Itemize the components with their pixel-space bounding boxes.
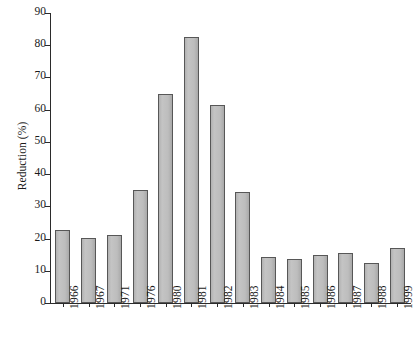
y-tick-label: 50	[35, 134, 47, 146]
x-tick-label: 1983	[248, 285, 260, 309]
x-tick-mark	[166, 303, 167, 307]
x-tick-mark	[217, 303, 218, 307]
x-tick-label: 1987	[351, 285, 363, 309]
x-tick-label: 1988	[376, 285, 388, 309]
x-tick-label: 1985	[299, 285, 311, 309]
x-tick-mark	[346, 303, 347, 307]
x-tick-mark	[243, 303, 244, 307]
y-axis-line	[50, 13, 51, 304]
x-tick-label: 1980	[171, 285, 183, 309]
x-tick-mark	[371, 303, 372, 307]
y-tick-label: 30	[35, 198, 47, 210]
x-tick-mark	[114, 303, 115, 307]
y-tick-label: 0	[40, 295, 46, 307]
x-tick-mark	[397, 303, 398, 307]
x-tick-mark	[63, 303, 64, 307]
x-tick-mark	[320, 303, 321, 307]
x-tick-label: 1986	[325, 285, 337, 309]
x-tick-label: 1999	[402, 285, 414, 309]
x-tick-label: 1967	[94, 285, 106, 309]
bar	[158, 94, 173, 303]
y-tick-label: 20	[35, 231, 47, 243]
y-axis-title: Reduction (%)	[16, 86, 28, 226]
bar	[184, 37, 199, 303]
y-tick-label: 10	[35, 263, 47, 275]
x-tick-label: 1981	[196, 285, 208, 309]
x-tick-mark	[89, 303, 90, 307]
x-tick-label: 1976	[145, 285, 157, 309]
y-tick-label: 90	[35, 5, 47, 17]
bar	[210, 105, 225, 303]
y-tick-label: 80	[35, 37, 47, 49]
y-tick-label: 60	[35, 102, 47, 114]
x-tick-label: 1971	[119, 285, 131, 309]
x-tick-label: 1982	[222, 285, 234, 309]
y-tick-label: 40	[35, 166, 47, 178]
x-tick-mark	[140, 303, 141, 307]
x-tick-mark	[269, 303, 270, 307]
x-tick-label: 1984	[274, 285, 286, 309]
x-tick-label: 1966	[68, 285, 80, 309]
bar-chart: Reduction (%) 0102030405060708090 196619…	[0, 0, 414, 347]
x-tick-mark	[294, 303, 295, 307]
plot-area: 0102030405060708090 19661967197119761980…	[50, 13, 410, 303]
y-tick-label: 70	[35, 69, 47, 81]
x-tick-mark	[191, 303, 192, 307]
